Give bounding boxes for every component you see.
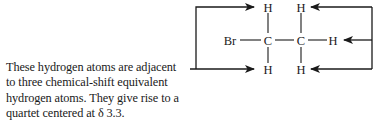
atom-h-c1-top: H (263, 1, 272, 15)
caption-line: quartet centered at δ 3.3. (6, 106, 206, 121)
atom-c2: C (297, 34, 305, 48)
right-bracket-arrows (311, 7, 372, 69)
atom-br: Br (224, 34, 237, 48)
atom-h-c2-top: H (296, 1, 305, 15)
atom-h-c2-bottom: H (296, 63, 305, 77)
bonds (240, 13, 327, 63)
atoms: Br C C H H H H H (224, 1, 338, 77)
atom-h-c2-right: H (328, 34, 337, 48)
caption-line: hydrogen atoms. They give rise to a (6, 91, 206, 106)
caption-line: These hydrogen atoms are adjacent (6, 60, 206, 75)
caption: These hydrogen atoms are adjacent to thr… (6, 60, 206, 121)
caption-line: to three chemical-shift equivalent (6, 75, 206, 90)
atom-h-c1-bottom: H (263, 63, 272, 77)
atom-c1: C (264, 34, 272, 48)
